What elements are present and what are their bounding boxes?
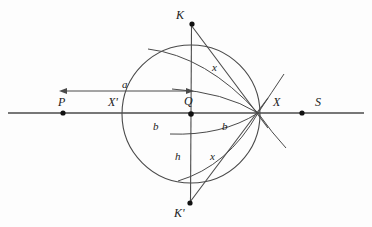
segment-label-a: a — [122, 79, 128, 90]
arc-lower-outer-to-X — [178, 113, 258, 181]
point-dot-Q — [188, 111, 194, 117]
segment-label-h: h — [175, 151, 181, 162]
segment-label-b-right: b — [222, 121, 228, 132]
point-label-P: P — [58, 96, 65, 108]
point-label-X: X — [273, 96, 280, 108]
arc-lower-inner-to-X — [170, 113, 258, 134]
segment-label-b-left: b — [153, 121, 159, 132]
point-label-K: K — [176, 9, 184, 21]
segment-label-x-bottom: x — [210, 151, 215, 162]
geometry-diagram: P X' Q X S K K' a b b h x x — [0, 0, 372, 227]
tangent-ray-lower-right — [258, 113, 286, 148]
arc-upper-outer-to-X — [148, 49, 258, 113]
point-label-K-prime: K' — [174, 207, 185, 219]
diagram-canvas — [0, 0, 372, 227]
point-label-S: S — [315, 96, 321, 108]
segment-label-x-top: x — [212, 62, 217, 73]
point-label-Q: Q — [184, 95, 193, 107]
point-dot-S — [299, 110, 304, 115]
point-dot-P — [60, 110, 65, 115]
point-dot-K — [189, 21, 194, 26]
point-label-X-prime: X' — [108, 96, 118, 108]
point-dot-Kp — [187, 200, 192, 205]
